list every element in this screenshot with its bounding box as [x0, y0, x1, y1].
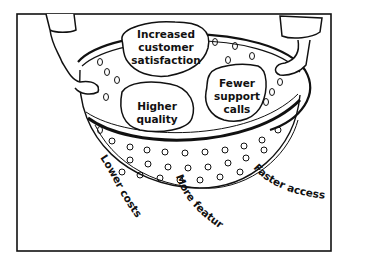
blob-text-line: Fewer [219, 77, 256, 89]
blob-text-line: Higher [137, 100, 177, 112]
blob-text-line: support [214, 90, 260, 102]
label-faster-access: Faster access [251, 161, 326, 201]
blob-text-line: Increased [137, 28, 195, 40]
blob-text-line: quality [136, 113, 177, 125]
colander-illustration: Increased customer satisfaction Fewer su… [0, 0, 367, 266]
blob-text-line: satisfaction [131, 54, 200, 66]
left-hand-icon [46, 14, 98, 94]
blob-text-line: calls [224, 103, 251, 115]
right-hand-icon [275, 16, 322, 75]
blob-text-line: customer [138, 41, 194, 53]
